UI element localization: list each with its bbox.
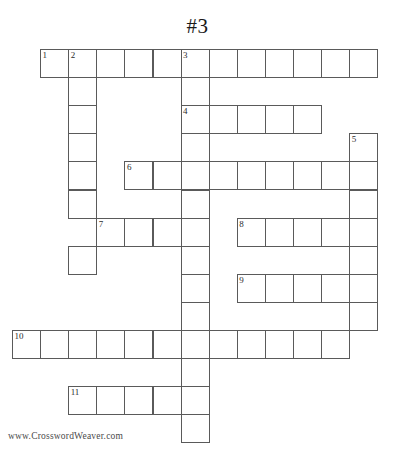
crossword-grid: 1234567891011 — [0, 0, 395, 454]
crossword-cell[interactable] — [321, 161, 350, 190]
cell-number-7: 7 — [99, 219, 104, 230]
crossword-cell[interactable]: 4 — [181, 105, 210, 134]
crossword-cell[interactable] — [237, 49, 266, 78]
crossword-cell[interactable] — [265, 49, 294, 78]
crossword-cell[interactable] — [265, 161, 294, 190]
crossword-cell[interactable] — [209, 330, 238, 359]
crossword-cell[interactable] — [153, 218, 182, 247]
crossword-cell[interactable] — [68, 330, 97, 359]
crossword-cell[interactable] — [293, 49, 322, 78]
cell-number-8: 8 — [239, 219, 244, 230]
crossword-cell[interactable] — [68, 190, 97, 219]
crossword-cell[interactable] — [153, 330, 182, 359]
crossword-cell[interactable] — [321, 49, 350, 78]
crossword-cell[interactable] — [181, 190, 210, 219]
crossword-cell[interactable] — [181, 133, 210, 162]
crossword-cell[interactable] — [153, 386, 182, 415]
crossword-cell[interactable] — [265, 330, 294, 359]
crossword-cell[interactable]: 9 — [237, 274, 266, 303]
cell-number-4: 4 — [183, 106, 188, 117]
crossword-cell[interactable] — [96, 386, 125, 415]
crossword-cell[interactable] — [349, 302, 378, 331]
crossword-cell[interactable] — [153, 49, 182, 78]
crossword-cell[interactable] — [181, 330, 210, 359]
crossword-cell[interactable] — [293, 218, 322, 247]
crossword-cell[interactable] — [349, 49, 378, 78]
crossword-cell[interactable] — [68, 246, 97, 275]
crossword-cell[interactable] — [293, 330, 322, 359]
crossword-cell[interactable] — [349, 218, 378, 247]
crossword-cell[interactable] — [181, 386, 210, 415]
cell-number-6: 6 — [127, 162, 132, 173]
crossword-cell[interactable] — [124, 386, 153, 415]
crossword-cell[interactable] — [237, 330, 266, 359]
crossword-cell[interactable]: 3 — [181, 49, 210, 78]
crossword-cell[interactable] — [181, 302, 210, 331]
crossword-cell[interactable] — [237, 105, 266, 134]
crossword-cell[interactable] — [321, 330, 350, 359]
crossword-cell[interactable]: 8 — [237, 218, 266, 247]
cell-number-9: 9 — [239, 275, 244, 286]
crossword-cell[interactable] — [349, 161, 378, 190]
crossword-cell[interactable]: 10 — [12, 330, 41, 359]
crossword-cell[interactable] — [96, 330, 125, 359]
crossword-cell[interactable] — [265, 105, 294, 134]
crossword-cell[interactable] — [153, 161, 182, 190]
crossword-cell[interactable] — [181, 414, 210, 443]
cell-number-10: 10 — [15, 331, 24, 342]
crossword-cell[interactable]: 7 — [96, 218, 125, 247]
crossword-cell[interactable] — [124, 218, 153, 247]
crossword-cell[interactable] — [349, 274, 378, 303]
crossword-cell[interactable] — [181, 358, 210, 387]
cell-number-5: 5 — [352, 134, 357, 145]
footer-credit: www.CrosswordWeaver.com — [8, 430, 123, 442]
cell-number-2: 2 — [71, 50, 76, 61]
crossword-cell[interactable] — [68, 133, 97, 162]
crossword-cell[interactable]: 6 — [124, 161, 153, 190]
crossword-cell[interactable] — [68, 105, 97, 134]
crossword-cell[interactable] — [349, 190, 378, 219]
crossword-cell[interactable]: 1 — [40, 49, 69, 78]
crossword-cell[interactable] — [321, 218, 350, 247]
crossword-cell[interactable] — [181, 218, 210, 247]
cell-number-3: 3 — [183, 50, 188, 61]
crossword-cell[interactable] — [349, 246, 378, 275]
crossword-cell[interactable] — [68, 77, 97, 106]
crossword-cell[interactable] — [181, 77, 210, 106]
crossword-cell[interactable] — [181, 161, 210, 190]
crossword-cell[interactable] — [181, 246, 210, 275]
crossword-cell[interactable] — [209, 161, 238, 190]
crossword-cell[interactable] — [209, 105, 238, 134]
crossword-cell[interactable] — [68, 161, 97, 190]
crossword-cell[interactable] — [40, 330, 69, 359]
crossword-cell[interactable] — [181, 274, 210, 303]
cell-number-11: 11 — [71, 387, 80, 398]
crossword-cell[interactable] — [237, 161, 266, 190]
crossword-cell[interactable] — [265, 218, 294, 247]
crossword-cell[interactable] — [293, 274, 322, 303]
crossword-cell[interactable] — [124, 49, 153, 78]
crossword-cell[interactable] — [209, 49, 238, 78]
cell-number-1: 1 — [43, 50, 48, 61]
crossword-cell[interactable]: 2 — [68, 49, 97, 78]
crossword-cell[interactable] — [124, 330, 153, 359]
crossword-cell[interactable] — [265, 274, 294, 303]
crossword-cell[interactable]: 11 — [68, 386, 97, 415]
crossword-cell[interactable] — [96, 49, 125, 78]
crossword-cell[interactable] — [293, 105, 322, 134]
crossword-cell[interactable] — [321, 274, 350, 303]
crossword-cell[interactable] — [293, 161, 322, 190]
crossword-cell[interactable]: 5 — [349, 133, 378, 162]
